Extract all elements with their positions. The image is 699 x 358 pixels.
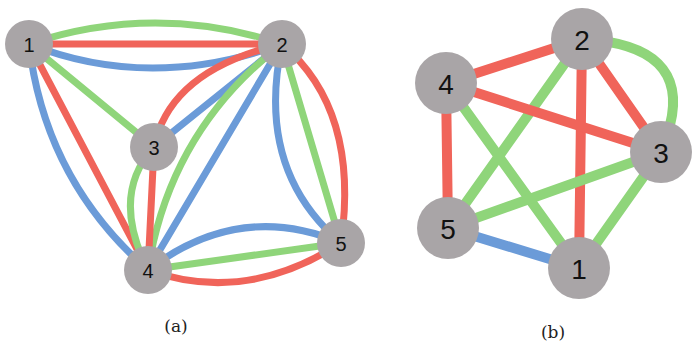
edge-1-4-red <box>29 44 148 270</box>
node-2: 2 <box>551 8 613 70</box>
node-label: 4 <box>438 69 454 100</box>
node-2: 2 <box>258 20 306 68</box>
node-4: 4 <box>415 52 477 114</box>
node-3: 3 <box>130 123 178 171</box>
edge-2-1-red <box>579 39 582 268</box>
node-3: 3 <box>630 121 692 183</box>
node-label: 1 <box>23 34 34 56</box>
graph-a-caption: (a) <box>164 316 187 336</box>
node-label: 5 <box>335 233 346 255</box>
node-label: 1 <box>571 254 587 285</box>
graph-a: 12345 (a) <box>5 20 365 336</box>
node-label: 2 <box>574 25 590 56</box>
figure: 12345 (a) 12345 (b) <box>0 0 699 358</box>
node-5: 5 <box>417 197 479 259</box>
node-1: 1 <box>548 237 610 299</box>
node-label: 2 <box>276 34 287 56</box>
node-label: 5 <box>440 214 456 245</box>
node-4: 4 <box>124 246 172 294</box>
node-1: 1 <box>5 20 53 68</box>
node-label: 4 <box>142 260 153 282</box>
node-label: 3 <box>148 137 159 159</box>
graph-b: 12345 (b) <box>415 8 692 342</box>
edge-4-3-red <box>446 83 661 152</box>
node-label: 3 <box>653 138 669 169</box>
node-5: 5 <box>317 219 365 267</box>
graph-b-caption: (b) <box>541 322 565 342</box>
